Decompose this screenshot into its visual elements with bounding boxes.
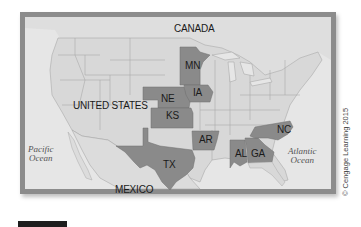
label-state-ks: KS [166, 111, 179, 121]
label-state-nc: NC [277, 125, 291, 135]
label-state-ar: AR [199, 135, 213, 145]
label-atlantic-ocean: Atlantic Ocean [288, 147, 317, 166]
label-state-tx: TX [163, 160, 175, 170]
label-state-ne: NE [161, 94, 175, 104]
label-mexico: MEXICO [115, 185, 153, 195]
label-canada: CANADA [174, 24, 214, 34]
label-state-mn: MN [185, 61, 200, 71]
copyright-credit: © Cengage Learning 2015 [341, 108, 350, 196]
pacific-line2: Ocean [28, 154, 54, 163]
caption-bar [18, 221, 67, 227]
label-state-ia: IA [193, 88, 202, 98]
us-map [0, 0, 361, 227]
label-united-states: UNITED STATES [73, 101, 148, 111]
label-state-ga: GA [251, 149, 265, 159]
label-state-al: AL [235, 149, 247, 159]
label-pacific-ocean: Pacific Ocean [28, 145, 54, 164]
atlantic-line2: Ocean [288, 156, 317, 165]
